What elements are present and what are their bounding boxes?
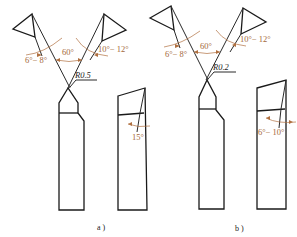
caption-b: b ) — [235, 224, 244, 233]
left-gauge-wedge — [150, 6, 174, 30]
tool-side-view — [118, 88, 147, 210]
panel-a: 6°− 8° 60° 10°− 12° R0.5 15° a ) — [13, 14, 150, 232]
label-included-angle: 60° — [62, 47, 74, 57]
label-right-clearance: 10°− 12° — [240, 34, 271, 44]
caption-a: a ) — [97, 223, 106, 232]
panel-b: 6°− 8° 60° 10°− 12° R0.2 6°− 10° b ) — [150, 6, 296, 233]
label-side-angle: 6°− 10° — [258, 127, 284, 137]
tool-side-view — [257, 80, 286, 209]
right-gauge-wedge — [241, 8, 266, 34]
label-right-clearance: 10°− 12° — [98, 44, 129, 54]
label-nose-radius: R0.5 — [74, 70, 91, 80]
label-left-clearance: 6°− 8° — [165, 49, 187, 59]
label-left-clearance: 6°− 8° — [25, 55, 47, 65]
tool-front-view — [199, 80, 224, 209]
left-gauge-wedge — [13, 14, 35, 37]
right-gauge-wedge — [102, 14, 126, 41]
tool-front-view — [59, 88, 84, 210]
label-included-angle: 60° — [200, 41, 212, 51]
label-side-angle: 15° — [132, 132, 144, 142]
tool-geometry-diagram: 6°− 8° 60° 10°− 12° R0.5 15° a ) — [0, 0, 297, 237]
label-nose-radius: R0.2 — [212, 62, 230, 72]
